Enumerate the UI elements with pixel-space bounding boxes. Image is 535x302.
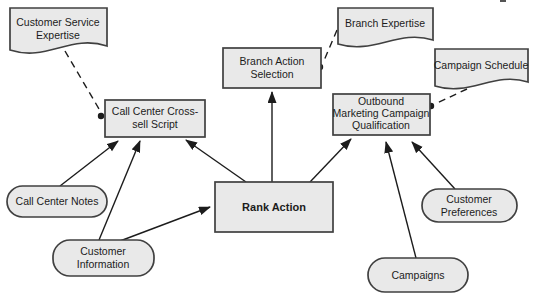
edge-campaign-schedule-to-outbound-marketing-campaign-qualification [435, 89, 467, 104]
edge-customer-information-to-call-center-cross-sell-script [99, 141, 140, 240]
node-label: Campaign Schedule [434, 59, 529, 71]
node-label: Information [77, 258, 130, 270]
node-label: Expertise [36, 29, 80, 41]
node-customer-service-expertise: Customer Service Expertise [10, 8, 107, 53]
node-label: Qualification [352, 119, 410, 131]
edge-dot-customer-service-expertise [98, 113, 104, 119]
node-label: Call Center Notes [16, 195, 99, 207]
node-call-center-notes: Call Center Notes [7, 186, 107, 217]
node-label: Customer [446, 193, 492, 205]
node-campaign-schedule: Campaign Schedule [434, 49, 529, 89]
edge-branch-expertise-to-branch-action-selection [323, 30, 337, 63]
node-label: Campaigns [391, 269, 444, 281]
node-label: Marketing Campaign [333, 107, 430, 119]
node-label: Preferences [441, 206, 498, 218]
edge-call-center-notes-to-call-center-cross-sell-script [60, 141, 118, 186]
node-label: Rank Action [242, 201, 306, 213]
node-label: Branch Action [240, 55, 305, 67]
node-campaigns: Campaigns [368, 258, 468, 292]
node-label: sell Script [132, 118, 178, 130]
node-label: Selection [250, 68, 293, 80]
node-label: Customer [80, 245, 126, 257]
node-customer-preferences: Customer Preferences [422, 189, 517, 222]
node-label: Customer Service [16, 16, 100, 28]
node-label: Branch Expertise [345, 17, 425, 29]
edge-customer-service-expertise-to-call-center-cross-sell-script [65, 51, 102, 114]
decision-diagram: Customer Service Expertise Branch Expert… [0, 0, 535, 302]
node-rank-action: Rank Action [215, 182, 333, 232]
node-label: Outbound [358, 95, 404, 107]
edge-campaigns-to-outbound-marketing-campaign-qualification [386, 142, 416, 258]
node-call-center-cross-sell-script: Call Center Cross- sell Script [105, 100, 205, 137]
edge-rank-action-to-outbound-marketing-campaign-qualification [310, 139, 351, 182]
node-customer-information: Customer Information [53, 240, 154, 276]
edge-customer-information-to-rank-action [120, 207, 210, 241]
node-branch-expertise: Branch Expertise [338, 8, 433, 47]
edge-customer-preferences-to-outbound-marketing-campaign-qualification [412, 142, 455, 189]
edge-rank-action-to-call-center-cross-sell-script [186, 140, 246, 182]
node-outbound-marketing-campaign-qualification: Outbound Marketing Campaign Qualificatio… [333, 94, 430, 135]
node-branch-action-selection: Branch Action Selection [223, 48, 321, 88]
node-label: Call Center Cross- [112, 105, 199, 117]
diagram-canvas: Customer Service Expertise Branch Expert… [0, 0, 535, 302]
